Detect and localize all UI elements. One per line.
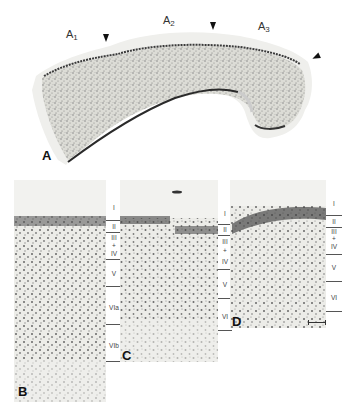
micrograph-b [14, 180, 106, 402]
micrograph-c [120, 180, 218, 362]
layer-label: II [326, 218, 342, 225]
scale-bar [308, 322, 326, 323]
panel-letter-b: B [18, 384, 27, 399]
layer-label: VI [326, 294, 342, 301]
micrograph-d [230, 180, 326, 328]
panel-letter-a: A [42, 148, 51, 163]
layer-scale-d: I II III + IV V VI [326, 180, 342, 328]
region-label-a2: A2 [163, 14, 175, 28]
panel-a: A1 A2 A3 A [0, 0, 352, 170]
cortex-section-image [0, 0, 352, 170]
layer-label: IV [326, 243, 342, 250]
panel-d: D [230, 180, 326, 328]
layer-label: I [326, 200, 342, 207]
layer-label: III [326, 228, 342, 235]
panel-letter-c: C [122, 348, 131, 363]
panel-b: B [14, 180, 106, 402]
panel-c: C [120, 180, 218, 362]
layer-label: V [326, 264, 342, 271]
layer-label: + [326, 235, 342, 242]
arrowhead-icon [210, 22, 216, 30]
panel-letter-d: D [232, 314, 241, 329]
arrowhead-icon [103, 34, 109, 42]
region-label-a1: A1 [66, 28, 78, 42]
region-label-a3: A3 [258, 20, 270, 34]
